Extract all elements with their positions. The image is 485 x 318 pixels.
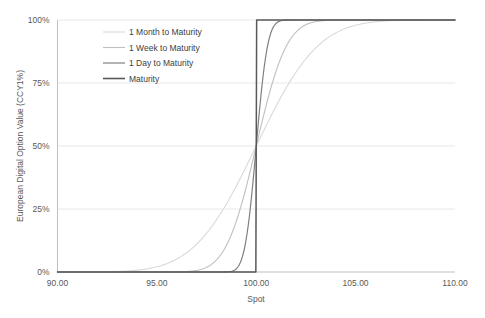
legend-label: 1 Day to Maturity	[129, 58, 194, 68]
y-tick-label: 0%	[37, 267, 50, 277]
x-tick-label: 90.00	[47, 278, 69, 288]
digital-option-chart: 0%25%50%75%100% 90.0095.00100.00105.0011…	[0, 0, 485, 318]
legend-label: 1 Week to Maturity	[129, 43, 200, 53]
x-tick-labels: 90.0095.00100.00105.00110.00	[47, 278, 468, 288]
legend-label: Maturity	[129, 74, 160, 84]
x-tick-label: 95.00	[146, 278, 168, 288]
y-tick-label: 25%	[32, 204, 49, 214]
y-tick-label: 50%	[32, 141, 49, 151]
y-tick-label: 100%	[28, 15, 50, 25]
legend-item[interactable]: 1 Month to Maturity	[103, 27, 203, 37]
legend-label: 1 Month to Maturity	[129, 27, 203, 37]
x-tick-label: 110.00	[442, 278, 468, 288]
legend-item[interactable]: Maturity	[103, 74, 160, 84]
y-tick-labels: 0%25%50%75%100%	[28, 15, 50, 277]
x-tick-label: 100.00	[243, 278, 269, 288]
legend: 1 Month to Maturity1 Week to Maturity1 D…	[103, 27, 203, 84]
y-tick-label: 75%	[32, 78, 49, 88]
legend-item[interactable]: 1 Week to Maturity	[103, 43, 200, 53]
legend-item[interactable]: 1 Day to Maturity	[103, 58, 194, 68]
chart-canvas: 0%25%50%75%100% 90.0095.00100.00105.0011…	[0, 0, 485, 318]
x-tick-label: 105.00	[343, 278, 369, 288]
x-axis-title: Spot	[247, 294, 265, 304]
y-axis-title: European Digital Option Value (CCY1%)	[15, 70, 25, 222]
